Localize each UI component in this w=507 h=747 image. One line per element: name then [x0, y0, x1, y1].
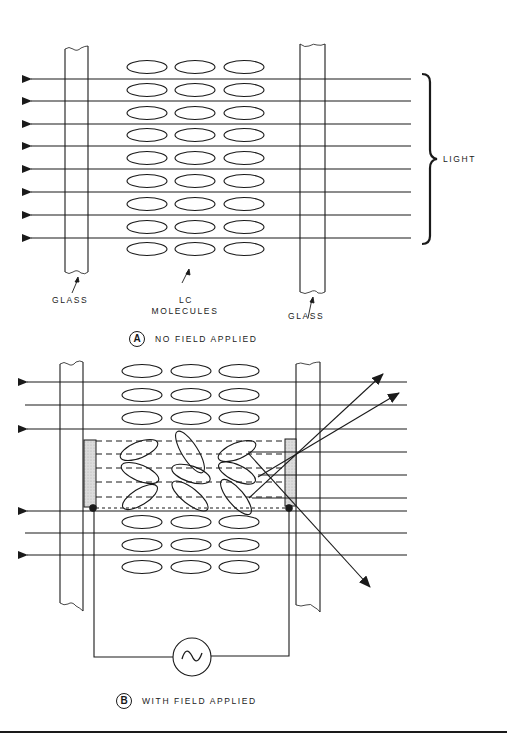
- caption-b: WITH FIELD APPLIED: [142, 696, 257, 706]
- caption-a: NO FIELD APPLIED: [155, 334, 258, 344]
- lcd-diagram: [0, 0, 507, 747]
- glass-plate-left-a: [65, 46, 88, 274]
- diagram-a-no-field: [31, 44, 437, 318]
- label-light: LIGHT: [443, 154, 476, 164]
- diagram-b-with-field: [25, 361, 407, 676]
- glass-plate-left-b: [60, 361, 83, 611]
- label-lc-molecules-2: MOLECULES: [140, 306, 230, 316]
- badge-b: B: [116, 693, 132, 709]
- light-brace: [422, 74, 437, 244]
- sine-wave-icon: [182, 651, 202, 661]
- lc-molecules-b-aligned: [122, 365, 259, 574]
- label-glass-right: GLASS: [288, 311, 324, 321]
- drive-circuit: [90, 505, 292, 676]
- label-glass-left: GLASS: [52, 295, 88, 305]
- electrode-left: [84, 440, 96, 507]
- glass-plate-right-b: [296, 362, 320, 612]
- lc-molecules-a: [127, 61, 264, 256]
- label-lc-molecules-1: LC: [168, 295, 204, 305]
- badge-a: A: [129, 331, 145, 347]
